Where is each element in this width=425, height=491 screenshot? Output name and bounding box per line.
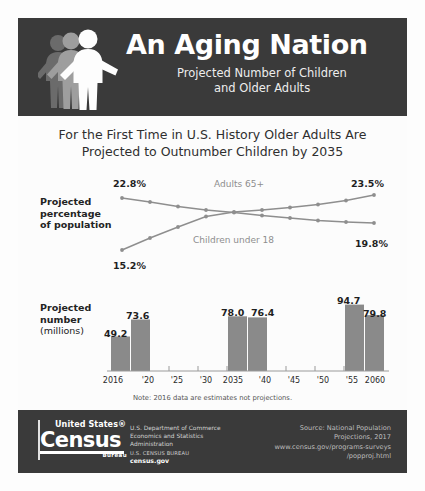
bar-tick-20: '20	[136, 376, 160, 385]
bar-chart: Projected number (millions)	[18, 290, 407, 398]
dept-website[interactable]: census.gov	[130, 457, 230, 465]
bar-label-2035-children: 76.4	[251, 307, 274, 318]
source-line3[interactable]: www.census.gov/programs-surveys	[241, 443, 391, 452]
dept-line3: U.S. CENSUS BUREAU	[130, 449, 230, 457]
poster-subtitle: Projected Number of Children and Older A…	[126, 66, 398, 96]
poster-header: An Aging Nation Projected Number of Chil…	[18, 18, 407, 116]
infographic-poster: An Aging Nation Projected Number of Chil…	[0, 0, 425, 491]
line-chart-plot	[118, 190, 380, 262]
series-label-children: Children under 18	[193, 235, 274, 245]
source-line2: Projections, 2017	[241, 433, 391, 442]
bar-tick-40: '40	[253, 376, 277, 385]
chart-note: Note: 2016 data are estimates not projec…	[18, 394, 407, 402]
line-end-older-value: 23.5%	[351, 178, 384, 189]
bar-2060-children	[365, 315, 384, 371]
bar-2016-older	[131, 320, 150, 372]
logo-bureau: Bureau	[102, 452, 127, 458]
bar-2035-older	[228, 316, 247, 371]
department-block: U.S. Department of Commerce Economics an…	[130, 424, 230, 465]
three-people-icon	[38, 26, 130, 112]
bar-tick-2035: 2035	[216, 376, 250, 385]
bar-label-2016-older: 73.6	[126, 310, 149, 321]
poster-subtitle-line2: and Older Adults	[126, 81, 398, 96]
bar-tick-45: '45	[282, 376, 306, 385]
source-line1: Source: National Population	[241, 424, 391, 433]
headline: For the First Time in U.S. History Older…	[44, 126, 381, 160]
headline-line1: For the First Time in U.S. History Older…	[44, 126, 381, 143]
source-line4[interactable]: /popproj.html	[241, 452, 391, 461]
dept-line1: U.S. Department of Commerce	[130, 424, 230, 432]
bar-tick-30: '30	[194, 376, 218, 385]
poster-frame: An Aging Nation Projected Number of Chil…	[18, 18, 407, 473]
bar-label-2060-older: 94.7	[337, 295, 360, 306]
bar-tick-2016: 2016	[96, 376, 130, 385]
dept-line2: Economics and Statistics Administration	[130, 432, 230, 448]
source-block: Source: National Population Projections,…	[241, 424, 391, 462]
line-start-older-value: 15.2%	[113, 260, 146, 271]
line-axis-l1: Projected	[40, 196, 120, 208]
bar-label-2035-older: 78.0	[221, 307, 244, 318]
poster-footer: United States® Census Bureau U.S. Depart…	[18, 410, 407, 473]
bar-2060-older	[345, 305, 364, 371]
poster-subtitle-line1: Projected Number of Children	[126, 66, 398, 81]
bar-2035-children	[248, 317, 267, 371]
series-label-older: Adults 65+	[214, 179, 264, 189]
bar-tick-2060: 2060	[358, 376, 392, 385]
logo-census-word: Census	[40, 428, 121, 452]
headline-line2: Projected to Outnumber Children by 2035	[44, 143, 381, 160]
line-end-children-value: 19.8%	[355, 238, 388, 249]
bar-label-2060-children: 79.8	[363, 308, 386, 319]
line-chart-axis-label: Projected percentage of population	[40, 196, 120, 231]
line-chart: Projected percentage of population	[18, 178, 407, 278]
census-logo: United States® Census Bureau	[38, 420, 128, 464]
line-start-children-value: 22.8%	[113, 178, 146, 189]
bar-tick-25: '25	[165, 376, 189, 385]
line-axis-l2: percentage	[40, 208, 120, 220]
line-axis-l3: of population	[40, 219, 120, 231]
bar-2016-children	[111, 337, 130, 372]
bar-label-2016-children: 49.2	[104, 328, 127, 339]
bar-tick-50: '50	[311, 376, 335, 385]
poster-title: An Aging Nation	[126, 30, 398, 60]
